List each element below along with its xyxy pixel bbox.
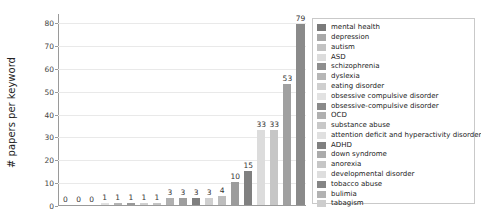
bar-slot: 4 bbox=[218, 14, 226, 205]
bar-value-label: 3 bbox=[168, 188, 173, 197]
legend-item[interactable]: tabagism bbox=[317, 199, 471, 209]
y-axis-title-text: # papers per keyword bbox=[6, 57, 17, 168]
legend-item[interactable]: dyslexia bbox=[317, 72, 471, 82]
legend-swatch-icon bbox=[317, 122, 326, 129]
bar[interactable] bbox=[296, 24, 304, 205]
bar-slot: 1 bbox=[140, 14, 148, 205]
y-axis-tick-label: 20 bbox=[44, 156, 54, 165]
y-axis-tick-mark bbox=[55, 160, 58, 161]
bar-slot: 1 bbox=[127, 14, 135, 205]
bar[interactable] bbox=[244, 171, 252, 205]
bar-value-label: 3 bbox=[194, 188, 199, 197]
legend-item[interactable]: autism bbox=[317, 43, 471, 53]
bar[interactable] bbox=[179, 198, 187, 205]
legend-item-label: developmental disorder bbox=[331, 170, 414, 179]
legend-item-label: bulimia bbox=[331, 190, 357, 199]
bar[interactable] bbox=[231, 182, 239, 205]
legend-swatch-icon bbox=[317, 112, 326, 119]
bar-slot: 0 bbox=[61, 14, 69, 205]
bar[interactable] bbox=[101, 203, 109, 205]
bar-value-label: 33 bbox=[270, 120, 280, 129]
bar[interactable] bbox=[140, 203, 148, 205]
bar[interactable] bbox=[192, 198, 200, 205]
legend-swatch-icon bbox=[317, 34, 326, 41]
legend-item[interactable]: developmental disorder bbox=[317, 170, 471, 180]
y-axis-tick-mark bbox=[55, 206, 58, 207]
y-axis-tick-mark bbox=[55, 46, 58, 47]
legend-swatch-icon bbox=[317, 200, 326, 207]
legend-item[interactable]: attention deficit and hyperactivity diso… bbox=[317, 131, 471, 141]
legend-item-label: mental health bbox=[331, 23, 380, 32]
y-axis-tick-mark bbox=[55, 137, 58, 138]
bar-slot: 1 bbox=[101, 14, 109, 205]
legend-swatch-icon bbox=[317, 103, 326, 110]
legend-item-label: obsessive-compulsive disorder bbox=[331, 102, 439, 111]
bar-value-label: 10 bbox=[230, 172, 240, 181]
legend-item[interactable]: obsessive compulsive disorder bbox=[317, 91, 471, 101]
bar[interactable] bbox=[114, 203, 122, 205]
bar[interactable] bbox=[218, 196, 226, 205]
legend-item-label: ASD bbox=[331, 53, 346, 62]
bar-value-label: 4 bbox=[220, 186, 225, 195]
bar-slot: 79 bbox=[296, 14, 304, 205]
x-axis-line bbox=[58, 205, 306, 206]
bar[interactable] bbox=[205, 198, 213, 205]
legend-item[interactable]: anorexia bbox=[317, 160, 471, 170]
legend-item[interactable]: down syndrome bbox=[317, 150, 471, 160]
bar-value-label: 1 bbox=[102, 193, 107, 202]
legend-item[interactable]: tobacco abuse bbox=[317, 180, 471, 190]
bar[interactable] bbox=[127, 203, 135, 205]
bar-slot: 10 bbox=[231, 14, 239, 205]
y-axis-tick-label: 0 bbox=[49, 202, 54, 211]
bar-value-label: 0 bbox=[76, 195, 81, 204]
y-axis-tick-label: 30 bbox=[44, 133, 54, 142]
legend-item[interactable]: ADHD bbox=[317, 140, 471, 150]
bar-value-label: 1 bbox=[141, 193, 146, 202]
y-axis-title: # papers per keyword bbox=[2, 0, 20, 224]
legend-swatch-icon bbox=[317, 161, 326, 168]
legend-item-label: autism bbox=[331, 43, 355, 52]
bar-slot: 0 bbox=[88, 14, 96, 205]
legend-item[interactable]: depression bbox=[317, 33, 471, 43]
legend: mental healthdepressionautismASDschizoph… bbox=[312, 18, 475, 204]
y-axis-tick-mark bbox=[55, 92, 58, 93]
y-axis-tick-mark bbox=[55, 115, 58, 116]
legend-swatch-icon bbox=[317, 142, 326, 149]
legend-item[interactable]: OCD bbox=[317, 111, 471, 121]
legend-swatch-icon bbox=[317, 93, 326, 100]
legend-item-label: down syndrome bbox=[331, 150, 387, 159]
legend-item-label: dyslexia bbox=[331, 72, 360, 81]
bar-value-label: 53 bbox=[283, 74, 293, 83]
legend-item[interactable]: mental health bbox=[317, 23, 471, 33]
y-axis-tick-mark bbox=[55, 23, 58, 24]
legend-swatch-icon bbox=[317, 191, 326, 198]
bar-slot: 0 bbox=[75, 14, 83, 205]
bar[interactable] bbox=[257, 130, 265, 205]
legend-item[interactable]: eating disorder bbox=[317, 82, 471, 92]
bar-value-label: 3 bbox=[181, 188, 186, 197]
legend-item[interactable]: schizophrenia bbox=[317, 62, 471, 72]
legend-item-label: schizophrenia bbox=[331, 62, 379, 71]
legend-item[interactable]: bulimia bbox=[317, 189, 471, 199]
bar-series: 0001111133334101533335379 bbox=[59, 14, 306, 205]
bar-value-label: 0 bbox=[89, 195, 94, 204]
legend-item-label: eating disorder bbox=[331, 82, 384, 91]
bar-value-label: 15 bbox=[243, 161, 253, 170]
bar-slot: 1 bbox=[114, 14, 122, 205]
bar-value-label: 79 bbox=[296, 14, 306, 23]
y-axis-tick-label: 80 bbox=[44, 19, 54, 28]
bar[interactable] bbox=[283, 84, 291, 205]
bar[interactable] bbox=[166, 198, 174, 205]
legend-item[interactable]: substance abuse bbox=[317, 121, 471, 131]
y-axis-tick-mark bbox=[55, 183, 58, 184]
y-axis-tick-label: 50 bbox=[44, 87, 54, 96]
legend-swatch-icon bbox=[317, 54, 326, 61]
bar[interactable] bbox=[270, 130, 278, 205]
y-axis-tick-label: 10 bbox=[44, 179, 54, 188]
legend-item[interactable]: ASD bbox=[317, 52, 471, 62]
legend-item-label: attention deficit and hyperactivity diso… bbox=[331, 131, 481, 140]
bar-slot: 3 bbox=[192, 14, 200, 205]
bar[interactable] bbox=[153, 203, 161, 205]
bar-value-label: 3 bbox=[207, 188, 212, 197]
legend-item[interactable]: obsessive-compulsive disorder bbox=[317, 101, 471, 111]
